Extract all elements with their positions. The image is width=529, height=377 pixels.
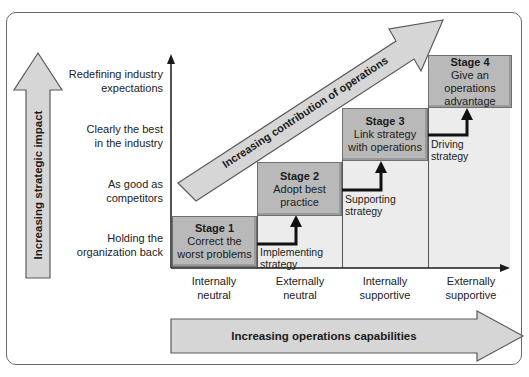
stage-1-box: Stage 1 Correct the worst problems (172, 216, 257, 267)
y-level-4-line1: Redefining industry (13, 67, 163, 81)
step-arrow-2 (342, 161, 387, 190)
transition-1-label: Implementing strategy (260, 246, 323, 270)
stage-1-line1: Correct the (187, 235, 241, 248)
horizontal-arrow-label: Increasing operations capabilities (171, 329, 477, 343)
stage-4-box: Stage 4 Give an operations advantage (428, 55, 512, 108)
x-level-1: Internally neutral (171, 274, 257, 302)
stage-2-title: Stage 2 (280, 170, 319, 183)
y-level-2-line2: competitors (13, 191, 163, 205)
transition-3-line1: Driving (431, 138, 468, 150)
x-level-4-line2: supportive (428, 288, 514, 302)
step-arrow-1 (257, 215, 302, 244)
stage-4-line1: Give an (451, 69, 489, 82)
horizontal-arrow-text: Increasing operations capabilities (231, 330, 416, 342)
transition-2-line2: strategy (345, 205, 396, 217)
x-level-1-line1: Internally (171, 274, 257, 288)
y-level-3-line1: Clearly the best (13, 122, 163, 136)
stage-3-title: Stage 3 (365, 115, 404, 128)
stage-4-line2: operations (444, 82, 495, 95)
transition-2-label: Supporting strategy (345, 193, 396, 217)
transition-1-line2: strategy (260, 258, 323, 270)
stage-4-title: Stage 4 (450, 56, 489, 69)
y-level-4-line2: expectations (13, 81, 163, 95)
x-level-4: Externally supportive (428, 274, 514, 302)
y-level-1-line1: Holding the (13, 231, 163, 245)
x-level-3: Internally supportive (342, 274, 428, 302)
y-level-1: Holding the organization back (13, 231, 163, 259)
x-level-3-line1: Internally (342, 274, 428, 288)
y-level-3: Clearly the best in the industry (13, 122, 163, 150)
y-level-2-line1: As good as (13, 177, 163, 191)
x-level-2-line2: neutral (257, 288, 343, 302)
stage-3-line2: with operations (348, 141, 422, 154)
stage-4-line3: advantage (444, 95, 495, 108)
y-level-3-line2: in the industry (13, 136, 163, 150)
stage-3-line1: Link strategy (354, 128, 416, 141)
stage-1-title: Stage 1 (195, 222, 234, 235)
y-level-4: Redefining industry expectations (13, 67, 163, 95)
x-level-2: Externally neutral (257, 274, 343, 302)
stage-2-line1: Adopt best (273, 183, 326, 196)
y-level-2: As good as competitors (13, 177, 163, 205)
stage-1-line2: worst problems (177, 248, 252, 261)
stage-3-box: Stage 3 Link strategy with operations (342, 108, 428, 161)
y-level-1-line2: organization back (13, 245, 163, 259)
x-level-3-line2: supportive (342, 288, 428, 302)
transition-2-line1: Supporting (345, 193, 396, 205)
x-level-1-line2: neutral (171, 288, 257, 302)
transition-3-line2: strategy (431, 150, 468, 162)
transition-1-line1: Implementing (260, 246, 323, 258)
stage-2-box: Stage 2 Adopt best practice (257, 162, 342, 216)
stage-2-line2: practice (280, 196, 319, 209)
x-level-4-line1: Externally (428, 274, 514, 288)
x-level-2-line1: Externally (257, 274, 343, 288)
step-arrow-3 (428, 108, 473, 135)
transition-3-label: Driving strategy (431, 138, 468, 162)
